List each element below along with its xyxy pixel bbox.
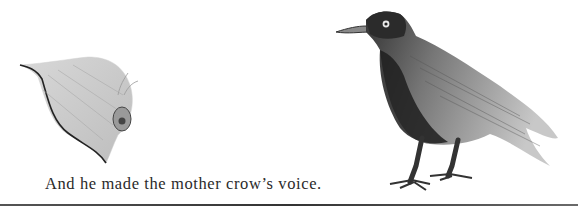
book-page: And he made the mother crow’s voice. xyxy=(0,0,578,211)
story-caption: And he made the mother crow’s voice. xyxy=(45,174,322,194)
leaf-snail-illustration xyxy=(18,55,148,165)
crow-illustration xyxy=(330,6,570,196)
page-divider-line xyxy=(0,204,578,206)
